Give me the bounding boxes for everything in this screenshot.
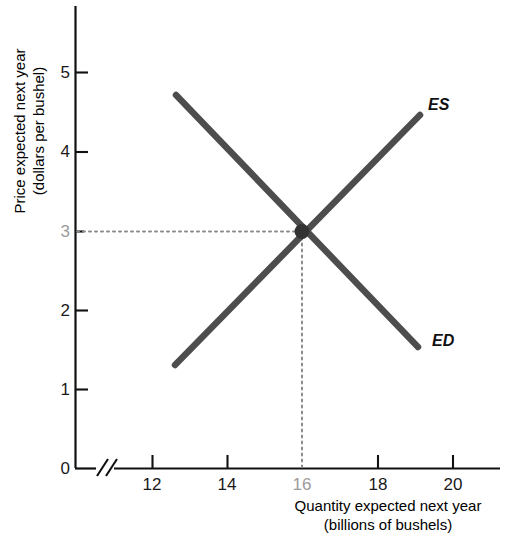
y-tick-label-0: 0: [48, 460, 70, 477]
y-axis-title-line-2: (dollars per bushel): [29, 16, 48, 246]
x-tick-label-16: 16: [285, 476, 319, 493]
y-tick-label-3: 3: [48, 223, 70, 240]
y-tick-label-4: 4: [48, 143, 70, 160]
curve-es: [175, 115, 420, 365]
x-axis-title-line-2: (billions of bushels): [268, 515, 508, 534]
y-axis-title-line-1: Price expected next year: [10, 16, 29, 246]
curve-ed: [176, 95, 418, 347]
x-axis-title-line-1: Quantity expected next year: [268, 496, 508, 515]
expected-supply-demand-chart: 5 4 3 2 1 0 12 14 16 18 20 ES ED Price e…: [0, 0, 511, 543]
y-axis-title: Price expected next year (dollars per bu…: [10, 16, 48, 246]
y-tick-label-5: 5: [48, 64, 70, 81]
curve-label-es: ES: [428, 96, 449, 114]
curve-label-ed: ED: [432, 332, 454, 350]
x-tick-label-18: 18: [361, 476, 395, 493]
chart-canvas: [0, 0, 511, 543]
x-tick-label-20: 20: [436, 476, 470, 493]
y-tick-label-2: 2: [48, 302, 70, 319]
y-tick-label-1: 1: [48, 381, 70, 398]
x-tick-label-12: 12: [135, 476, 169, 493]
x-tick-label-14: 14: [210, 476, 244, 493]
equilibrium-point-marker: [295, 224, 310, 239]
x-axis-title: Quantity expected next year (billions of…: [268, 496, 508, 534]
